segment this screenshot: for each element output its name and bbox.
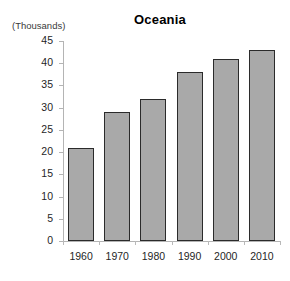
y-axis-tick (59, 63, 64, 64)
x-axis-tick-label: 1970 (97, 250, 137, 262)
y-axis-tick-label: 30 (23, 101, 53, 113)
chart-title: Oceania (95, 12, 225, 27)
x-axis-tick-label: 1960 (61, 250, 101, 262)
x-axis-tick (244, 241, 245, 245)
x-axis-tick (135, 241, 136, 245)
y-axis-tick (59, 219, 64, 220)
x-axis-tick-label: 1990 (170, 250, 210, 262)
y-axis-tick-label: 15 (23, 167, 53, 179)
y-axis-tick (59, 41, 64, 42)
plot-area: 051015202530354045 (63, 41, 280, 241)
y-axis-unit-label: (Thousands) (12, 20, 65, 31)
bar (140, 99, 166, 241)
bar (104, 112, 130, 241)
y-axis-tick-label: 10 (23, 190, 53, 202)
y-axis-tick-label: 40 (23, 56, 53, 68)
y-axis-tick-label: 45 (23, 34, 53, 46)
x-axis-tick (63, 241, 64, 245)
bar (177, 72, 203, 241)
y-axis-tick-label: 0 (23, 234, 53, 246)
y-axis-tick-label: 25 (23, 123, 53, 135)
y-axis-tick (59, 174, 64, 175)
y-axis-tick-label: 5 (23, 212, 53, 224)
y-axis-tick (59, 130, 64, 131)
y-axis-tick (59, 108, 64, 109)
bar (249, 50, 275, 241)
y-axis-tick (59, 197, 64, 198)
bar (213, 59, 239, 241)
x-axis-tick-label: 2010 (242, 250, 282, 262)
x-axis-tick-label: 2000 (206, 250, 246, 262)
x-axis-tick (172, 241, 173, 245)
x-axis-tick (280, 241, 281, 245)
x-axis-tick (208, 241, 209, 245)
y-axis-tick-label: 35 (23, 78, 53, 90)
y-axis-tick (59, 152, 64, 153)
y-axis-tick (59, 85, 64, 86)
x-axis-tick-label: 1980 (133, 250, 173, 262)
y-axis-line (63, 41, 64, 241)
x-axis-tick (99, 241, 100, 245)
bar-chart-figure: (Thousands) Oceania 051015202530354045 1… (0, 0, 290, 281)
bar (68, 148, 94, 241)
y-axis-tick-label: 20 (23, 145, 53, 157)
x-axis-tick-labels: 196019701980199020002010 (63, 250, 280, 266)
